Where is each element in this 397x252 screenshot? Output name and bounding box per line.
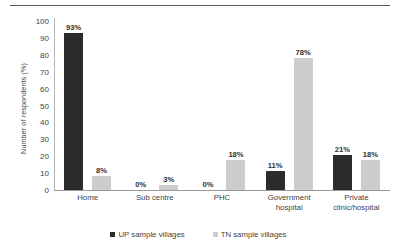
y-axis-tick-label: 40 (40, 118, 49, 127)
bar-value-label: 18% (363, 150, 378, 159)
chart-legend: UP sample villages TN sample villages (0, 230, 397, 239)
bar-group-bars: 0%18% (188, 21, 255, 190)
bar[interactable]: 18% (226, 160, 245, 190)
bar-slot: 3% (155, 21, 183, 190)
bar[interactable]: 3% (159, 185, 178, 190)
bar-slot: 18% (356, 21, 384, 190)
bar-value-label: 0% (202, 180, 213, 189)
y-axis-tick-label: 50 (40, 101, 49, 110)
bar[interactable]: 11% (266, 171, 285, 190)
bar-slot: 78% (289, 21, 317, 190)
legend-item-up[interactable]: UP sample villages (110, 230, 184, 239)
x-axis-line (54, 190, 390, 191)
y-axis-tick-label: 100 (36, 17, 49, 26)
y-axis-tick-label: 90 (40, 33, 49, 42)
bar-group: 0%18%PHC (188, 21, 255, 190)
x-axis-category-label-line: Home (54, 193, 121, 203)
legend-swatch-icon-tn (213, 232, 218, 237)
bar-group: 11%78%Governmenthospital (256, 21, 323, 190)
legend-item-tn[interactable]: TN sample villages (213, 230, 287, 239)
x-axis-category-label-line: clinic/hospital (323, 203, 390, 213)
chart-figure: Number of respondents (%) 10090807060504… (0, 0, 397, 252)
bar[interactable]: 78% (294, 58, 313, 190)
x-axis-category-label: PHC (188, 193, 255, 203)
legend-label-tn: TN sample villages (221, 230, 287, 239)
y-axis-tick-label: 20 (40, 152, 49, 161)
bar-value-label: 78% (296, 48, 311, 57)
bar-group: 93%8%Home (54, 21, 121, 190)
legend-label-up: UP sample villages (118, 230, 184, 239)
bar-slot: 18% (222, 21, 250, 190)
y-axis-title: Number of respondents (%) (19, 24, 28, 194)
bar[interactable]: 21% (333, 155, 352, 190)
y-axis-tick-label: 10 (40, 169, 49, 178)
legend-swatch-icon-up (110, 232, 115, 237)
x-axis-category-label-line: hospital (256, 203, 323, 213)
x-axis-category-label-line: Sub centre (121, 193, 188, 203)
bar-value-label: 93% (66, 23, 81, 32)
x-axis-category-label-line: Government (256, 193, 323, 203)
bar-value-label: 11% (268, 161, 283, 170)
y-axis-tick-label: 60 (40, 84, 49, 93)
bar-value-label: 3% (163, 175, 174, 184)
bar-slot: 93% (60, 21, 88, 190)
x-axis-category-label-line: Private (323, 193, 390, 203)
y-axis-tick-label: 70 (40, 67, 49, 76)
y-axis-tick-label: 80 (40, 50, 49, 59)
bar-group-bars: 93%8% (54, 21, 121, 190)
bar-slot: 0% (194, 21, 222, 190)
bar[interactable]: 93% (64, 33, 83, 190)
bar-group-bars: 0%3% (121, 21, 188, 190)
bar-slot: 21% (328, 21, 356, 190)
x-axis-category-label: Sub centre (121, 193, 188, 203)
bar-group: 21%18%Privateclinic/hospital (323, 21, 390, 190)
y-axis-tick-label: 30 (40, 135, 49, 144)
plot-area: 1009080706050403020100 93%8%Home0%3%Sub … (54, 21, 390, 190)
bar[interactable]: 18% (361, 160, 380, 190)
x-axis-category-label: Privateclinic/hospital (323, 193, 390, 213)
bar-slot: 11% (261, 21, 289, 190)
y-axis-tick-label: 0 (45, 186, 49, 195)
bar-value-label: 8% (96, 166, 107, 175)
bar-value-label: 21% (335, 145, 350, 154)
top-divider (10, 5, 390, 6)
bar[interactable]: 8% (92, 176, 111, 190)
x-axis-category-label-line: PHC (188, 193, 255, 203)
x-axis-category-label: Governmenthospital (256, 193, 323, 213)
bar-slot: 0% (127, 21, 155, 190)
bar-slot: 8% (88, 21, 116, 190)
bar-value-label: 0% (135, 180, 146, 189)
x-axis-category-label: Home (54, 193, 121, 203)
bar-value-label: 18% (228, 150, 243, 159)
bar-group: 0%3%Sub centre (121, 21, 188, 190)
bar-group-bars: 21%18% (323, 21, 390, 190)
bar-group-bars: 11%78% (256, 21, 323, 190)
